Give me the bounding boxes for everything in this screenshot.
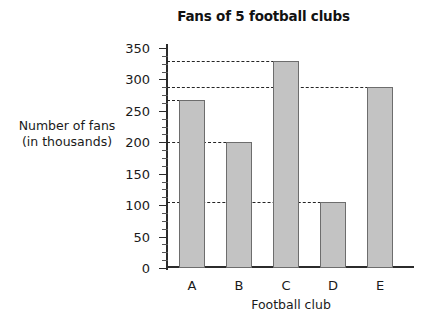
y-axis-tick	[159, 79, 168, 80]
y-axis-minor-tick	[162, 260, 168, 261]
y-axis-minor-tick	[162, 197, 168, 198]
y-axis-tick	[159, 48, 168, 49]
plot-area: 050100150200250300350 ABCDE	[166, 44, 416, 272]
y-axis-tick	[159, 111, 168, 112]
y-axis-minor-tick	[162, 134, 168, 135]
y-axis-minor-tick	[162, 64, 168, 65]
y-axis-minor-tick	[162, 72, 168, 73]
bar-a	[179, 100, 205, 268]
y-axis-minor-tick	[162, 221, 168, 222]
bar-chart-figure: Fans of 5 football clubs Number of fans …	[0, 0, 439, 323]
x-axis-tick-label: D	[328, 278, 338, 293]
x-axis-tick-label: B	[235, 278, 244, 293]
y-axis-minor-tick	[162, 244, 168, 245]
y-axis-minor-tick	[162, 158, 168, 159]
x-axis-tick-label: C	[281, 278, 290, 293]
y-axis-title: Number of fans (in thousands)	[6, 118, 128, 150]
x-axis-tick-label: A	[188, 278, 197, 293]
bar-c	[273, 61, 299, 268]
x-axis-tick-label: E	[376, 278, 384, 293]
y-axis-minor-tick	[162, 127, 168, 128]
y-axis-tick-label: 0	[142, 261, 150, 276]
bar-b	[226, 142, 252, 268]
y-axis-tick-label: 200	[125, 135, 150, 150]
bar-e	[367, 87, 393, 268]
y-axis-minor-tick	[162, 252, 168, 253]
y-axis-minor-tick	[162, 103, 168, 104]
y-axis-minor-tick	[162, 182, 168, 183]
y-axis-title-line-2: (in thousands)	[6, 134, 128, 150]
y-axis-title-line-1: Number of fans	[19, 118, 116, 133]
y-axis-minor-tick	[162, 229, 168, 230]
bar-d	[320, 202, 346, 268]
y-axis-tick	[159, 174, 168, 175]
y-axis-minor-tick	[162, 119, 168, 120]
y-axis-minor-tick	[162, 56, 168, 57]
y-axis-tick	[159, 205, 168, 206]
y-axis-tick	[159, 237, 168, 238]
x-axis-title: Football club	[166, 297, 416, 312]
y-axis-minor-tick	[162, 95, 168, 96]
y-axis-tick-label: 50	[133, 229, 150, 244]
y-axis-tick-label: 300	[125, 72, 150, 87]
y-axis-tick-label: 250	[125, 103, 150, 118]
y-axis-tick	[159, 268, 168, 269]
y-axis-tick-label: 350	[125, 41, 150, 56]
y-axis-tick-label: 100	[125, 198, 150, 213]
y-axis-minor-tick	[162, 150, 168, 151]
y-axis-minor-tick	[162, 166, 168, 167]
y-axis-minor-tick	[162, 189, 168, 190]
chart-title: Fans of 5 football clubs	[0, 8, 439, 24]
y-axis-tick-label: 150	[125, 166, 150, 181]
y-axis-minor-tick	[162, 213, 168, 214]
